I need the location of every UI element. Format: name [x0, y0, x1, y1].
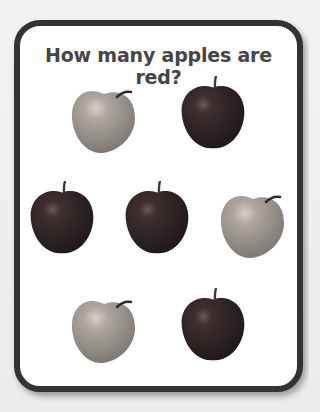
apple-red-icon	[122, 181, 192, 257]
apple-pale-icon	[69, 80, 139, 156]
apple-red-icon	[178, 76, 248, 152]
worksheet-question: How many apples are red?	[20, 44, 297, 88]
apple-red-icon	[27, 181, 97, 257]
apple-red-icon	[178, 288, 248, 364]
apple-pale-icon	[218, 185, 288, 261]
apple-pale-icon	[69, 290, 139, 366]
